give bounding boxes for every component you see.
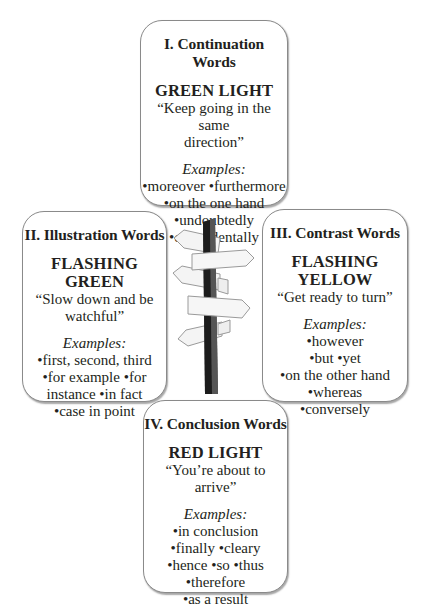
card-title: III. Contrast Words <box>263 224 407 242</box>
example-line: •hence •so •thus <box>144 557 287 574</box>
signal-quote: “Keep going in the same direction” <box>141 100 287 151</box>
example-line: •therefore <box>144 574 287 591</box>
example-line: •but •yet <box>263 350 407 367</box>
example-line: instance •in fact <box>23 386 166 403</box>
examples-label: Examples: <box>263 316 407 333</box>
example-line: •on the other hand <box>263 367 407 384</box>
signpost-icon <box>170 218 262 396</box>
quote-line: direction” <box>141 134 287 151</box>
signal-light-label: FLASHING GREEN <box>23 255 166 291</box>
card-title: II. Illustration Words <box>23 226 166 244</box>
example-line: •moreover •furthermore <box>141 178 287 195</box>
card-title: I. Continuation Words <box>141 35 287 71</box>
example-line: •as a result <box>144 591 287 606</box>
quote-line: “Get ready to turn” <box>263 289 407 306</box>
signal-quote: “Slow down and be watchful” <box>23 291 166 325</box>
quote-line: “Slow down and be <box>23 291 166 308</box>
card-illustration-words: II. Illustration Words FLASHING GREEN “S… <box>22 211 167 402</box>
example-line: •in conclusion <box>144 523 287 540</box>
example-line: •first, second, third <box>23 352 166 369</box>
example-line: •whereas <box>263 384 407 401</box>
example-line: •on the one hand <box>141 195 287 212</box>
card-title: IV. Conclusion Words <box>144 415 287 433</box>
examples-label: Examples: <box>23 335 166 352</box>
card-contrast-words: III. Contrast Words FLASHING YELLOW “Get… <box>262 209 408 402</box>
quote-line: “Keep going in the same <box>141 100 287 134</box>
card-continuation-words: I. Continuation Words GREEN LIGHT “Keep … <box>140 20 288 206</box>
signal-light-label: RED LIGHT <box>144 444 287 462</box>
signal-quote: “Get ready to turn” <box>263 289 407 306</box>
signal-quote: “You’re about to arrive” <box>144 462 287 496</box>
examples-label: Examples: <box>141 161 287 178</box>
quote-line: watchful” <box>23 308 166 325</box>
signal-light-label: GREEN LIGHT <box>141 82 287 100</box>
quote-line: “You’re about to arrive” <box>144 462 287 496</box>
examples-label: Examples: <box>144 506 287 523</box>
example-line: •finally •cleary <box>144 540 287 557</box>
card-conclusion-words: IV. Conclusion Words RED LIGHT “You’re a… <box>143 400 288 593</box>
example-line: •for example •for <box>23 369 166 386</box>
example-line: •however <box>263 333 407 350</box>
signal-light-label: FLASHING YELLOW <box>263 253 407 289</box>
